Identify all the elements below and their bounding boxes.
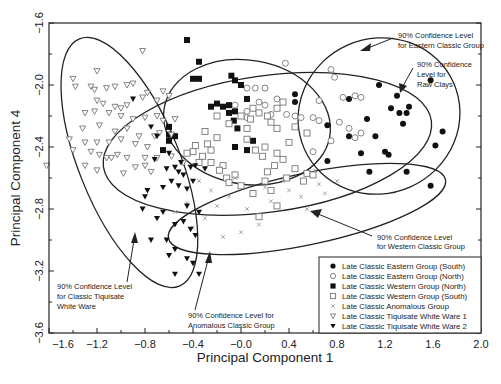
svg-text:Raw Clays: Raw Clays bbox=[417, 80, 453, 89]
x-tick-label: 0.4 bbox=[281, 338, 296, 350]
y-tick-label: −1.6 bbox=[33, 12, 45, 34]
x-tick-label: −0.0 bbox=[230, 338, 252, 350]
annotation-eastern: 90% Confidence Level for Eastern Classic… bbox=[360, 31, 484, 51]
legend-item: Late Classic Tiquisate White Ware 1 bbox=[330, 312, 467, 321]
legend-label: Late Classic Eastern Group (North) bbox=[342, 272, 464, 281]
svg-text:90% Confidence Level: 90% Confidence Level bbox=[57, 282, 132, 291]
x-tick-label: −0.8 bbox=[134, 338, 156, 350]
annotation-raw-clays: 90% Confidence Level for Raw Clays bbox=[399, 60, 472, 93]
x-tick-label: 0.8 bbox=[329, 338, 344, 350]
y-tick-label: −2.0 bbox=[33, 74, 45, 96]
svg-text:Anomalous Classic Group: Anomalous Classic Group bbox=[188, 321, 275, 330]
legend-label: Late Classic Western Group (South) bbox=[342, 292, 467, 301]
arrow-head-icon bbox=[131, 232, 138, 243]
x-tick-label: −1.2 bbox=[86, 338, 108, 350]
y-tick-label: −3.6 bbox=[33, 322, 45, 344]
x-axis-title: Principal Component 1 bbox=[197, 350, 334, 365]
svg-text:90% Confidence Level for: 90% Confidence Level for bbox=[188, 311, 274, 320]
svg-text:90% Confidence Level: 90% Confidence Level bbox=[377, 233, 452, 242]
arrow-line bbox=[368, 38, 393, 48]
y-axis-title: Principal Component 4 bbox=[8, 109, 23, 246]
svg-text:90% Confidence: 90% Confidence bbox=[417, 60, 472, 69]
annotation-western: 90% Confidence Level for Western Classic… bbox=[310, 209, 465, 251]
legend-label: Late Classic Tiquisate White Ware 2 bbox=[342, 322, 467, 331]
legend-item: Late Classic Eastern Group (North) bbox=[330, 272, 464, 281]
legend-item: Late Classic Western Group (North) bbox=[330, 282, 466, 291]
svg-text:for Western Classic Group: for Western Classic Group bbox=[377, 242, 465, 251]
x-tick-label: 1.2 bbox=[377, 338, 392, 350]
y-tick-label: −3.2 bbox=[33, 260, 45, 282]
x-tick-label: −1.6 bbox=[52, 338, 74, 350]
legend-label: Late Classic Tiquisate White Ware 1 bbox=[342, 312, 467, 321]
arrow-head-icon bbox=[360, 43, 371, 51]
svg-text:for Eastern Classic Group: for Eastern Classic Group bbox=[398, 41, 484, 50]
svg-text:White Ware: White Ware bbox=[57, 302, 96, 311]
svg-text:Level for: Level for bbox=[417, 70, 446, 79]
series-filled-triangle-down bbox=[130, 97, 208, 278]
legend-label: Late Classic Eastern Group (South) bbox=[342, 262, 465, 271]
legend-label: Late Classic Western Group (North) bbox=[342, 282, 466, 291]
arrow-head-icon bbox=[310, 209, 322, 218]
legend-item: Late Classic Eastern Group (South) bbox=[330, 262, 465, 271]
series-filled-square bbox=[160, 37, 256, 153]
annotation-tiquisate: 90% Confidence Level for Classic Tiquisa… bbox=[57, 232, 138, 311]
annotation-anomalous: 90% Confidence Level for Anomalous Class… bbox=[188, 251, 275, 330]
series-x bbox=[173, 168, 339, 238]
y-tick-label: −2.4 bbox=[33, 136, 45, 158]
legend-item: Late Classic Western Group (South) bbox=[330, 292, 467, 301]
legend-item: Late Classic Tiquisate White Ware 2 bbox=[330, 322, 467, 331]
series-open-triangle-down bbox=[44, 49, 187, 177]
x-tick-label: 2.0 bbox=[473, 338, 488, 350]
scatter-chart: −1.6−1.2−0.8−0.4−0.00.40.81.21.62.0 −1.6… bbox=[0, 0, 501, 384]
legend-item: Late Classic Anomalous Group bbox=[331, 302, 450, 311]
arrow-head-icon bbox=[205, 251, 212, 263]
svg-text:for Classic Tiquisate: for Classic Tiquisate bbox=[57, 292, 124, 301]
svg-text:90% Confidence Level: 90% Confidence Level bbox=[398, 31, 473, 40]
y-tick-label: −2.8 bbox=[33, 198, 45, 220]
legend-label: Late Classic Anomalous Group bbox=[342, 302, 450, 311]
arrow-head-icon bbox=[399, 83, 407, 93]
x-tick-label: −0.4 bbox=[182, 338, 204, 350]
legend: Late Classic Eastern Group (South)Late C… bbox=[319, 257, 481, 333]
x-tick-label: 1.6 bbox=[425, 338, 440, 350]
